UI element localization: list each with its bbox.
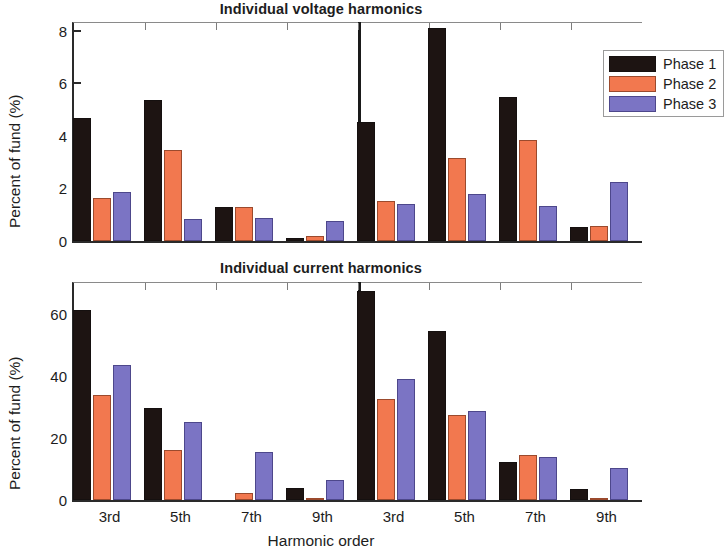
bar-phase-3-5th: [184, 422, 202, 500]
current-harmonics-panel: Individual current harmonics Percent of …: [0, 258, 642, 556]
bar-phase-1-3rd: [73, 118, 91, 241]
y-axis-tick-label: 8: [59, 22, 67, 39]
legend-item-phase-3: Phase 3: [609, 95, 716, 112]
bar-phase-2-9th: [306, 498, 324, 500]
x-axis-label: Harmonic order: [0, 532, 642, 550]
bar-phase-2-9th: [590, 498, 608, 500]
y-axis-tick-label: 40: [50, 368, 67, 385]
y-axis-tick-label: 60: [50, 306, 67, 323]
y-axis-tick-label: 0: [59, 492, 67, 509]
bar-phase-3-9th: [326, 221, 344, 241]
x-axis-tick-mark: [358, 283, 359, 290]
bar-phase-2-5th: [164, 450, 182, 500]
y-axis-tick-label: 2: [59, 180, 67, 197]
x-axis-tick-mark: [287, 283, 288, 290]
bar-phase-1-9th: [570, 489, 588, 500]
bar-phase-2-5th: [448, 158, 466, 241]
bar-phase-1-9th: [570, 227, 588, 241]
y-axis-tick-label: 20: [50, 430, 67, 447]
bar-phase-1-5th: [428, 28, 446, 241]
bar-phase-2-9th: [306, 236, 324, 241]
bar-phase-1-9th: [286, 238, 304, 241]
voltage-y-axis-label: Percent of fund (%): [6, 94, 24, 228]
bar-phase-1-9th: [286, 488, 304, 500]
bar-phase-3-9th: [610, 182, 628, 241]
bar-phase-2-5th: [448, 415, 466, 500]
x-axis-tick-mark: [571, 23, 572, 30]
legend-swatch-phase-2-icon: [609, 76, 656, 92]
bar-phase-1-5th: [144, 100, 162, 241]
bar-phase-3-3rd: [397, 379, 415, 500]
y-axis-tick-label: 0: [59, 233, 67, 250]
bar-phase-1-3rd: [73, 310, 91, 500]
bar-phase-3-9th: [326, 480, 344, 500]
x-axis-tick-mark: [500, 23, 501, 30]
bar-phase-2-3rd: [93, 395, 111, 500]
bar-phase-2-9th: [590, 226, 608, 241]
bar-phase-1-3rd: [357, 291, 375, 500]
bar-phase-3-9th: [610, 468, 628, 500]
bar-phase-3-3rd: [113, 192, 131, 241]
legend-item-phase-1: Phase 1: [609, 55, 716, 72]
bar-phase-2-3rd: [377, 201, 395, 241]
x-axis-tick-label: 7th: [241, 508, 262, 525]
x-axis-tick-label: 3rd: [383, 508, 405, 525]
current-y-axis-label: Percent of fund (%): [6, 356, 24, 490]
bar-phase-2-3rd: [377, 399, 395, 500]
current-plot-area: 02040603rd5th7th9th3rd5th7th9th: [72, 282, 642, 502]
x-axis-tick-mark: [145, 23, 146, 30]
bar-phase-1-5th: [428, 331, 446, 500]
bar-phase-3-5th: [468, 411, 486, 500]
y-axis-tick-label: 4: [59, 127, 67, 144]
x-axis-tick-mark: [145, 283, 146, 290]
legend-swatch-phase-1-icon: [609, 56, 656, 72]
bar-phase-3-3rd: [113, 365, 131, 500]
bar-phase-3-5th: [468, 194, 486, 241]
x-axis-tick-mark: [287, 23, 288, 30]
bar-phase-2-7th: [519, 140, 537, 241]
x-axis-tick-mark: [216, 23, 217, 30]
legend-label-phase-1: Phase 1: [663, 56, 716, 72]
bar-phase-2-7th: [519, 455, 537, 500]
x-axis-tick-label: 3rd: [99, 508, 121, 525]
voltage-plot-area: Phase 1 Phase 2 Phase 3 02468: [72, 22, 642, 243]
x-axis-tick-label: 5th: [170, 508, 191, 525]
legend: Phase 1 Phase 2 Phase 3: [603, 50, 724, 117]
bar-phase-1-7th: [215, 207, 233, 241]
bar-phase-1-7th: [499, 462, 517, 500]
bar-phase-2-5th: [164, 150, 182, 241]
legend-label-phase-3: Phase 3: [663, 96, 716, 112]
bar-phase-3-7th: [539, 457, 557, 500]
x-axis-tick-label: 7th: [525, 508, 546, 525]
x-axis-tick-mark: [429, 283, 430, 290]
x-axis-tick-label: 9th: [312, 508, 333, 525]
y-axis-tick-mark: [74, 82, 81, 84]
voltage-harmonics-panel: Individual voltage harmonics Percent of …: [0, 0, 642, 262]
bar-phase-1-3rd: [357, 122, 375, 242]
bar-phase-3-3rd: [397, 204, 415, 241]
current-chart-title: Individual current harmonics: [0, 260, 642, 276]
legend-item-phase-2: Phase 2: [609, 75, 716, 92]
bar-phase-1-5th: [144, 408, 162, 500]
y-axis-tick-label: 6: [59, 75, 67, 92]
x-axis-tick-label: 9th: [596, 508, 617, 525]
bar-phase-1-7th: [499, 97, 517, 241]
voltage-chart-title: Individual voltage harmonics: [0, 1, 642, 17]
legend-swatch-phase-3-icon: [609, 96, 656, 112]
bar-phase-2-3rd: [93, 198, 111, 241]
bar-phase-3-7th: [255, 218, 273, 241]
x-axis-tick-mark: [216, 283, 217, 290]
y-axis-tick-mark: [74, 30, 81, 32]
bar-phase-3-7th: [255, 452, 273, 500]
x-axis-tick-mark: [571, 283, 572, 290]
legend-label-phase-2: Phase 2: [663, 76, 716, 92]
bar-phase-3-5th: [184, 219, 202, 241]
x-axis-tick-mark: [358, 23, 359, 30]
x-axis-tick-label: 5th: [454, 508, 475, 525]
bar-phase-3-7th: [539, 206, 557, 241]
bar-phase-2-7th: [235, 207, 253, 241]
bar-phase-2-7th: [235, 493, 253, 500]
x-axis-tick-mark: [500, 283, 501, 290]
